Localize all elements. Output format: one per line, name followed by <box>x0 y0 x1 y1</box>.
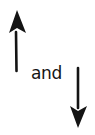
arrows-and-figure: and <box>0 0 95 135</box>
arrow-down-icon <box>70 68 87 128</box>
arrow-up-icon <box>9 10 26 71</box>
connector-word: and <box>31 63 62 83</box>
